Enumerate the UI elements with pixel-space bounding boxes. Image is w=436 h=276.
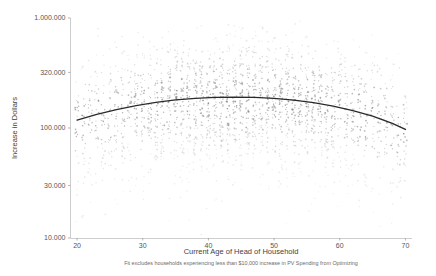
scatter-point xyxy=(136,135,137,136)
scatter-point xyxy=(339,100,341,102)
scatter-point xyxy=(121,80,122,81)
scatter-point xyxy=(404,112,406,114)
scatter-point xyxy=(141,108,143,110)
scatter-point xyxy=(233,78,234,79)
scatter-point xyxy=(345,93,346,94)
scatter-point xyxy=(380,88,382,90)
scatter-point xyxy=(301,56,303,58)
scatter-point xyxy=(140,82,141,83)
scatter-point xyxy=(365,184,367,186)
scatter-point xyxy=(114,104,116,106)
y-tick-label: 30.000 xyxy=(44,182,66,189)
scatter-point xyxy=(371,65,372,66)
scatter-point xyxy=(226,86,228,88)
scatter-point xyxy=(150,117,152,119)
scatter-point xyxy=(187,76,188,77)
scatter-point xyxy=(141,86,143,88)
scatter-point xyxy=(193,149,195,151)
scatter-point xyxy=(406,107,407,108)
scatter-point xyxy=(83,98,84,99)
scatter-point xyxy=(155,155,157,157)
scatter-point xyxy=(307,96,308,97)
scatter-point xyxy=(385,83,386,84)
scatter-point xyxy=(189,126,190,127)
scatter-point xyxy=(400,139,401,140)
scatter-point xyxy=(320,111,321,112)
scatter-point xyxy=(201,95,202,96)
scatter-point xyxy=(121,106,123,108)
scatter-point xyxy=(215,80,216,81)
scatter-point xyxy=(219,102,220,103)
scatter-point xyxy=(325,166,327,168)
scatter-point xyxy=(199,68,200,69)
scatter-point xyxy=(176,90,178,92)
scatter-point xyxy=(268,162,270,164)
scatter-point xyxy=(196,101,197,102)
scatter-point xyxy=(280,47,282,49)
scatter-point xyxy=(246,65,247,66)
scatter-point xyxy=(114,42,115,43)
scatter-point xyxy=(209,58,211,60)
scatter-point xyxy=(193,152,195,154)
scatter-point xyxy=(334,126,335,127)
scatter-point xyxy=(196,96,197,97)
scatter-point xyxy=(77,110,79,112)
scatter-point xyxy=(325,121,327,123)
scatter-point xyxy=(279,100,280,101)
scatter-point xyxy=(216,68,218,70)
scatter-point xyxy=(265,112,266,113)
scatter-point xyxy=(367,138,369,140)
scatter-point xyxy=(88,163,89,164)
scatter-point xyxy=(360,116,362,118)
scatter-point xyxy=(83,121,84,122)
scatter-point xyxy=(248,47,249,48)
scatter-point xyxy=(339,71,341,73)
scatter-point xyxy=(214,98,215,99)
scatter-point xyxy=(194,79,195,80)
y-tick-label: 320.000 xyxy=(40,69,65,76)
scatter-point xyxy=(267,138,268,139)
scatter-point xyxy=(163,133,165,135)
scatter-point xyxy=(180,97,181,98)
scatter-point xyxy=(313,72,315,74)
scatter-point xyxy=(163,112,165,114)
scatter-point xyxy=(261,87,263,89)
scatter-point xyxy=(233,102,234,103)
scatter-point xyxy=(128,59,129,60)
scatter-point xyxy=(286,126,287,127)
scatter-point xyxy=(240,109,241,110)
scatter-point xyxy=(285,34,287,36)
scatter-point xyxy=(248,99,250,101)
scatter-point xyxy=(208,120,209,121)
scatter-point xyxy=(142,130,143,131)
scatter-point xyxy=(333,140,335,142)
scatter-point xyxy=(326,74,327,75)
scatter-point xyxy=(229,33,230,34)
scatter-point xyxy=(121,123,122,124)
scatter-point xyxy=(235,159,237,161)
scatter-point xyxy=(293,141,295,143)
scatter-point xyxy=(208,115,210,117)
scatter-point xyxy=(131,91,133,93)
scatter-point xyxy=(186,167,187,168)
scatter-point xyxy=(207,130,209,132)
scatter-point xyxy=(174,150,175,151)
scatter-point xyxy=(235,30,236,31)
scatter-point xyxy=(367,70,368,71)
scatter-point xyxy=(187,140,188,141)
scatter-point xyxy=(245,136,246,137)
scatter-point xyxy=(157,145,158,146)
scatter-point xyxy=(380,140,381,141)
scatter-point xyxy=(239,92,241,94)
scatter-point xyxy=(168,107,170,109)
scatter-point xyxy=(116,135,117,136)
scatter-point xyxy=(206,87,207,88)
scatter-point xyxy=(109,81,111,83)
scatter-point xyxy=(170,81,172,83)
scatter-point xyxy=(109,140,110,141)
scatter-point xyxy=(221,200,223,202)
scatter-point xyxy=(249,112,250,113)
scatter-point xyxy=(114,135,116,137)
scatter-point xyxy=(294,176,295,177)
scatter-point xyxy=(189,110,190,111)
